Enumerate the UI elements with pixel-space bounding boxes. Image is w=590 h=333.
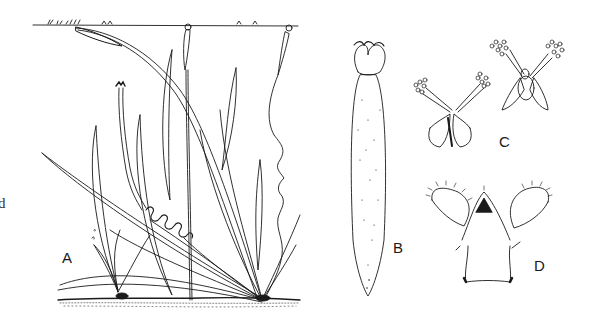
panel-b-ovary — [351, 42, 385, 296]
panel-c-flower-2 — [502, 50, 552, 110]
panel-b-stipple — [357, 99, 380, 288]
botanical-figure: A B C D d — [0, 0, 590, 333]
panel-c-anthers-2 — [490, 40, 564, 58]
substrate — [58, 293, 300, 307]
illustration-svg — [0, 0, 590, 333]
panel-label-d: D — [534, 258, 545, 273]
panel-label-b: B — [393, 240, 403, 255]
panel-label-c: C — [499, 134, 510, 149]
water-surface — [33, 20, 298, 26]
middle-spike — [184, 24, 192, 300]
edge-glyph: d — [0, 196, 6, 211]
panel-c-flower-1 — [420, 84, 484, 147]
panel-label-a: A — [62, 250, 72, 265]
panel-c-anthers-1 — [414, 72, 490, 94]
